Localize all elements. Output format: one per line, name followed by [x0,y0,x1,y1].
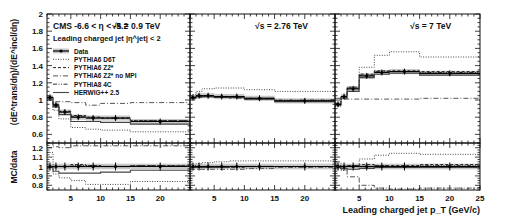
legend-entry: PYTHIA6 Z2* no MPI [74,72,137,79]
data-ratio-marker [448,165,451,168]
main-panel-frame [335,14,480,143]
data-marker [258,97,261,100]
y-tick-label-ratio: 0.8 [32,181,44,190]
y-tick-label: 1.4 [32,62,44,71]
y-tick-label: 1.2 [32,79,44,88]
series-line-ratio [47,146,190,148]
y-tick-label: 1.8 [32,27,44,36]
x-tick-label: 20 [156,194,165,203]
y-tick-label-ratio: 0.9 [32,172,44,181]
legend-entry: PYTHIA6 Z2* [74,64,114,71]
data-marker [159,120,162,123]
x-axis-label: Leading charged jet p_T (GeV/c) [342,205,480,215]
data-marker [92,116,95,119]
legend-entry: PYTHIA6 D6T [74,56,116,63]
legend: DataPYTHIA6 D6TPYTHIA6 Z2*PYTHIA6 Z2* no… [53,48,137,97]
data-marker [54,104,57,107]
y-tick-label: 0.6 [32,130,44,139]
data-ratio-marker [207,165,210,168]
data-marker [220,95,223,98]
data-ratio-marker [63,165,66,168]
data-ratio-marker [77,165,80,168]
data-marker [380,71,383,74]
data-uncertainty-bands [47,69,480,169]
data-marker [197,94,200,97]
data-ratio-marker [403,165,406,168]
data-ratio-marker [303,165,306,168]
main-panel-frame [190,14,335,143]
data-ratio-marker [92,165,95,168]
y-tick-label: 0.8 [32,113,44,122]
data-marker [114,116,117,119]
x-tick-label: 15 [415,194,424,203]
data-marker [191,96,194,99]
data-marker [207,94,210,97]
y-tick-label-ratio: 1 [39,163,44,172]
data-ratio-marker [258,165,261,168]
axis-labels: 5101520√s = 0.9 TeV5101520√s = 2.76 TeV5… [9,10,485,215]
data-ratio-marker [220,165,223,168]
energy-label: √s = 7 TeV [410,21,451,31]
data-ratio-marker [380,165,383,168]
y-tick-label: 2 [39,10,44,19]
y-tick-label-ratio: 1.1 [32,153,44,162]
data-ratio-marker [342,165,345,168]
x-tick-label: 25 [476,194,485,203]
legend-entry: PYTHIA8 4C [74,81,112,88]
x-tick-label: 15 [270,194,279,203]
legend-marker-data [59,49,62,52]
y-axis-label-main: (dE^trans/dη)/(dE^incl/dη) [9,19,19,125]
y-tick-label: 1 [39,96,44,105]
series-line-main [47,100,190,105]
x-tick-label: 20 [300,194,309,203]
data-marker [77,116,80,119]
data-ratio-marker [159,165,162,168]
data-ratio-marker [365,165,368,168]
data-marker [63,110,66,113]
x-tick-label: 5 [69,194,74,203]
x-tick-label: 10 [240,194,249,203]
x-tick-label: 20 [445,194,454,203]
chart-svg: 5101520√s = 0.9 TeV5101520√s = 2.76 TeV5… [0,0,505,219]
data-ratio-marker [235,165,238,168]
data-marker [365,74,368,77]
legend-entry: HERWIG++ 2.5 [74,89,119,96]
data-ratio-marker [114,165,117,168]
chart-container: 5101520√s = 0.9 TeV5101520√s = 2.76 TeV5… [0,0,505,219]
x-tick-label: 10 [385,194,394,203]
legend-entry: Data [74,48,88,55]
data-ratio-marker [54,165,57,168]
data-ratio-marker [352,165,355,168]
x-tick-label: 15 [126,194,135,203]
x-tick-label: 5 [357,194,362,203]
energy-label: √s = 2.76 TeV [255,21,308,31]
data-marker [448,72,451,75]
selection-label: Leading charged jet |η^jet| < 2 [53,34,161,43]
data-marker [403,70,406,73]
data-marker [352,87,355,90]
data-marker [342,95,345,98]
y-tick-label: 1.6 [32,44,44,53]
y-axis-label-ratio: MC/data [9,150,19,183]
y-tick-label-ratio: 1.2 [32,144,44,153]
chart-title: CMS -6.6 < η < -5.2 [53,21,128,31]
x-tick-label: 10 [96,194,105,203]
data-marker [303,99,306,102]
x-tick-label: 5 [212,194,217,203]
series-line-main [335,98,480,99]
data-marker [235,95,238,98]
data-marker [48,96,51,99]
data-ratio-marker [197,165,200,168]
